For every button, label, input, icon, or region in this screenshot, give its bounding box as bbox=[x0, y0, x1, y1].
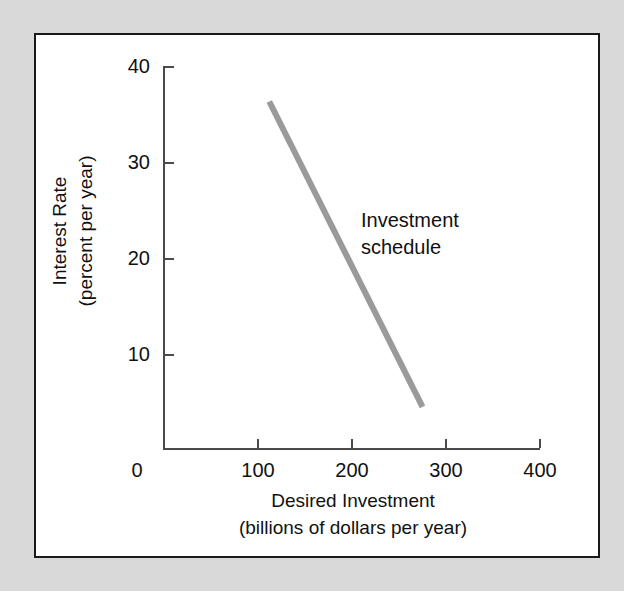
y-tick-40 bbox=[165, 66, 174, 68]
y-tick-20 bbox=[165, 258, 174, 260]
series-annotation-line2: schedule bbox=[361, 236, 441, 258]
figure-panel: 40 30 20 10 0 100 200 300 400 Investment… bbox=[34, 33, 600, 558]
y-tick-label-40: 40 bbox=[128, 56, 150, 76]
x-tick-label-400: 400 bbox=[510, 460, 570, 480]
x-axis-title: Desired Investment (billions of dollars … bbox=[133, 487, 573, 541]
y-tick-label-20: 20 bbox=[128, 248, 150, 268]
x-tick-label-100: 100 bbox=[228, 460, 288, 480]
x-tick-label-0: 0 bbox=[107, 460, 167, 480]
series-annotation-line1: Investment bbox=[361, 209, 459, 231]
x-tick-300 bbox=[445, 439, 447, 448]
y-tick-30 bbox=[165, 162, 174, 164]
y-tick-10 bbox=[165, 354, 174, 356]
x-axis-title-line2: (billions of dollars per year) bbox=[133, 514, 573, 541]
series-annotation: Investment schedule bbox=[361, 207, 459, 261]
x-tick-100 bbox=[257, 439, 259, 448]
data-line-svg bbox=[36, 35, 602, 560]
plot-area: 40 30 20 10 0 100 200 300 400 Investment… bbox=[36, 35, 602, 560]
x-axis-spine bbox=[163, 448, 540, 450]
x-tick-label-300: 300 bbox=[416, 460, 476, 480]
x-tick-200 bbox=[351, 439, 353, 448]
x-axis-title-line1: Desired Investment bbox=[271, 490, 435, 511]
y-axis-title-line2: (percent per year) bbox=[73, 131, 99, 331]
x-tick-400 bbox=[539, 439, 541, 448]
y-tick-label-10: 10 bbox=[128, 344, 150, 364]
y-axis-title: Interest Rate (percent per year) bbox=[47, 131, 99, 331]
y-tick-label-30: 30 bbox=[128, 152, 150, 172]
y-axis-title-line1: Interest Rate bbox=[49, 177, 70, 286]
x-tick-label-200: 200 bbox=[322, 460, 382, 480]
